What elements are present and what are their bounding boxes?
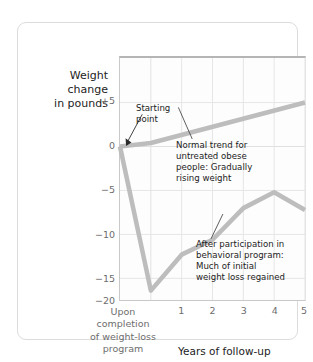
y-tick-minus15: −15 <box>81 274 115 284</box>
x-axis-title: Years of follow-up <box>178 345 271 357</box>
y-tick-0: 0 <box>81 141 115 151</box>
annotation-starting-point-line-2: point <box>136 114 198 125</box>
y-axis-tick-labels: +5 0 −5 −10 −15 −20 <box>80 56 115 301</box>
x-tick-5: 5 <box>301 306 307 316</box>
y-tick-minus20: −20 <box>81 296 115 306</box>
x-origin-line-1: Upon <box>75 306 171 318</box>
x-axis-origin-label: Upon completion of weight-loss program <box>75 306 171 355</box>
x-origin-line-4: program <box>75 343 171 355</box>
x-tick-2: 2 <box>209 306 215 316</box>
annotation-starting-point: Starting point <box>136 103 198 125</box>
y-tick-plus5: +5 <box>81 96 115 106</box>
y-tick-minus5: −5 <box>81 185 115 195</box>
annotation-normal-trend: Normal trend for untreated obese people:… <box>176 140 258 184</box>
annotation-behavioral-program: After participation in behavioral progra… <box>196 239 286 283</box>
x-tick-4: 4 <box>272 306 278 316</box>
y-tick-minus10: −10 <box>81 230 115 240</box>
figure-card: Weight change in pounds +5 0 −5 −10 −15 … <box>17 22 298 340</box>
x-tick-1: 1 <box>178 306 184 316</box>
x-tick-3: 3 <box>241 306 247 316</box>
annotation-starting-point-line-1: Starting <box>136 103 198 114</box>
x-origin-line-3: of weight-loss <box>75 331 171 343</box>
x-origin-line-2: completion <box>75 318 171 330</box>
